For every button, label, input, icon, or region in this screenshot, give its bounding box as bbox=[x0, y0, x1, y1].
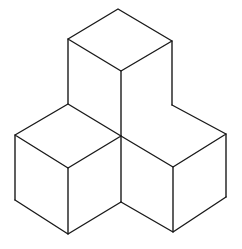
left-cube bbox=[15, 104, 121, 234]
top-cube bbox=[68, 9, 172, 136]
three-cubes-diagram bbox=[0, 0, 242, 249]
right-cube bbox=[121, 105, 226, 232]
